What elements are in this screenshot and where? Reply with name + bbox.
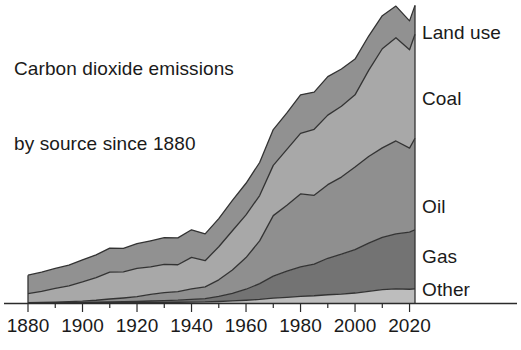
x-tick-label-1920: 1920	[111, 315, 163, 337]
x-tick-label-1900: 1900	[57, 315, 109, 337]
x-tick-label-2000: 2000	[329, 315, 381, 337]
x-tick-label-2020: 2020	[384, 315, 436, 337]
series-label-gas: Gas	[422, 246, 457, 268]
series-label-oil: Oil	[422, 196, 446, 218]
series-label-other: Other	[422, 279, 470, 301]
series-label-coal: Coal	[422, 88, 461, 110]
chart-screenshot: Carbon dioxide emissions by source since…	[0, 0, 521, 350]
series-label-land-use: Land use	[422, 22, 501, 44]
x-tick-label-1880: 1880	[2, 315, 54, 337]
x-tick-label-1960: 1960	[220, 315, 272, 337]
area-series-group	[28, 5, 415, 303]
x-axis-group	[4, 303, 517, 312]
x-tick-label-1940: 1940	[166, 315, 218, 337]
x-tick-label-1980: 1980	[275, 315, 327, 337]
